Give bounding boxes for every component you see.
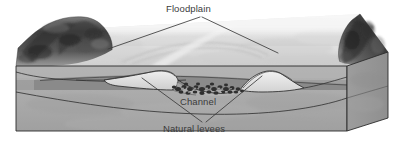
block-side-face [347, 52, 388, 131]
floodplain-block-diagram: Floodplain Channel Natural levees [0, 0, 401, 142]
label-channel: Channel [180, 96, 216, 107]
label-natural-levees: Natural levees [163, 123, 225, 134]
label-floodplain: Floodplain [166, 3, 211, 14]
diagram-canvas [0, 0, 401, 142]
